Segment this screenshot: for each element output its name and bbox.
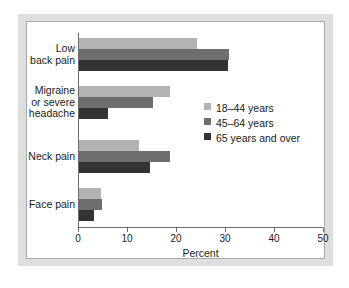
category-label: Lowback pain xyxy=(0,43,75,66)
bar xyxy=(79,140,139,151)
bar xyxy=(79,108,108,119)
bar xyxy=(79,162,150,173)
x-tick-20 xyxy=(176,228,177,232)
bar xyxy=(79,151,170,162)
legend-item: 18–44 years xyxy=(204,98,300,113)
plot-area: 01020304050 Lowback painMigraineor sever… xyxy=(27,22,326,260)
x-tick-label-30: 30 xyxy=(205,233,245,245)
legend-label: 65 years and over xyxy=(216,132,300,144)
chart-figure: 01020304050 Lowback painMigraineor sever… xyxy=(0,0,349,288)
x-tick-label-20: 20 xyxy=(156,233,196,245)
x-tick-10 xyxy=(127,228,128,232)
bar xyxy=(79,38,197,49)
bar xyxy=(79,86,170,97)
category-label-line: Face pain xyxy=(0,199,75,211)
legend-swatch-icon xyxy=(204,118,211,125)
chart-canvas: 01020304050 Lowback painMigraineor sever… xyxy=(26,21,325,259)
category-label: Migraineor severeheadache xyxy=(0,85,75,120)
category-label-line: headache xyxy=(0,108,75,120)
bar xyxy=(79,60,228,71)
x-tick-0 xyxy=(78,228,79,232)
legend-item: 45–64 years xyxy=(204,113,300,128)
category-label-line: back pain xyxy=(0,55,75,67)
x-tick-30 xyxy=(225,228,226,232)
legend-swatch-icon xyxy=(204,103,211,110)
legend-label: 45–64 years xyxy=(216,117,274,129)
bar xyxy=(79,188,101,199)
x-tick-label-50: 50 xyxy=(303,233,343,245)
x-axis-title: Percent xyxy=(78,247,323,259)
x-tick-label-40: 40 xyxy=(254,233,294,245)
bar xyxy=(79,49,229,60)
x-tick-label-0: 0 xyxy=(58,233,98,245)
legend-item: 65 years and over xyxy=(204,128,300,143)
x-tick-label-10: 10 xyxy=(107,233,147,245)
category-label: Neck pain xyxy=(0,151,75,163)
x-axis-line xyxy=(78,227,323,228)
bar xyxy=(79,199,102,210)
chart-legend: 18–44 years45–64 years65 years and over xyxy=(204,98,300,143)
x-tick-50 xyxy=(323,228,324,232)
bar xyxy=(79,210,94,221)
category-label-line: Neck pain xyxy=(0,151,75,163)
bar xyxy=(79,97,153,108)
x-tick-40 xyxy=(274,228,275,232)
legend-swatch-icon xyxy=(204,133,211,140)
category-label-line: Low xyxy=(0,43,75,55)
legend-label: 18–44 years xyxy=(216,102,274,114)
category-label: Face pain xyxy=(0,199,75,211)
